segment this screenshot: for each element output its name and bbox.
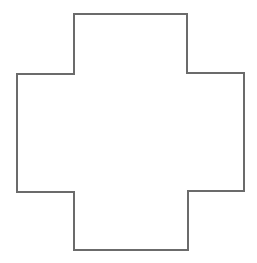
cross-shape-outline bbox=[17, 14, 244, 250]
diagram-canvas bbox=[0, 0, 257, 263]
cross-diagram bbox=[0, 0, 257, 263]
